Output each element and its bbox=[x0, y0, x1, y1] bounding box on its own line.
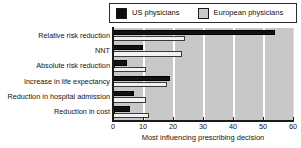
x-axis-tick bbox=[233, 117, 234, 121]
bar-european-physicians bbox=[113, 51, 182, 56]
y-axis-tick bbox=[112, 97, 115, 98]
y-axis-tick bbox=[112, 51, 115, 52]
plot-area bbox=[113, 28, 294, 120]
bar-us-physicians bbox=[113, 30, 275, 35]
y-axis-category-label: Increase in life expectancy bbox=[2, 78, 110, 85]
x-axis-title: Most influencing prescribing decision bbox=[113, 134, 293, 142]
y-axis-category-label: NNT bbox=[2, 47, 110, 54]
bar-chart-figure: US physicians European physicians Relati… bbox=[0, 0, 301, 148]
bar-group bbox=[113, 43, 293, 58]
bar-european-physicians bbox=[113, 97, 146, 102]
legend-entry-us-physicians: US physicians bbox=[116, 4, 180, 22]
bar-european-physicians bbox=[113, 67, 146, 72]
x-axis-tick bbox=[173, 117, 174, 121]
black-square-swatch-icon bbox=[116, 8, 127, 19]
x-axis-tick-label: 50 bbox=[259, 123, 267, 130]
x-axis-tick bbox=[293, 117, 294, 121]
y-axis-tick bbox=[112, 82, 115, 83]
bar-group bbox=[113, 59, 293, 74]
bar-us-physicians bbox=[113, 60, 127, 65]
x-axis-tick-label: 30 bbox=[199, 123, 207, 130]
x-axis-tick-label: 40 bbox=[229, 123, 237, 130]
x-axis-tick-label: 10 bbox=[139, 123, 147, 130]
legend-entry-european-physicians: European physicians bbox=[198, 4, 284, 22]
x-axis-tick-label: 20 bbox=[169, 123, 177, 130]
bar-group bbox=[113, 74, 293, 89]
bar-us-physicians bbox=[113, 106, 130, 111]
y-axis-category-label: Absolute risk reduction bbox=[2, 62, 110, 69]
y-axis-category-label: Reduction in cost bbox=[2, 108, 110, 115]
y-axis-tick bbox=[112, 36, 115, 37]
x-axis-tick-label: 60 bbox=[289, 123, 297, 130]
y-axis-tick bbox=[112, 66, 115, 67]
bar-group bbox=[113, 89, 293, 104]
legend-label-us-physicians: US physicians bbox=[132, 9, 180, 17]
y-axis-line bbox=[112, 27, 114, 121]
y-axis-tick bbox=[112, 112, 115, 113]
bar-group bbox=[113, 28, 293, 43]
bar-european-physicians bbox=[113, 36, 185, 41]
bar-us-physicians bbox=[113, 76, 170, 81]
x-axis-tick bbox=[143, 117, 144, 121]
x-axis-tick bbox=[203, 117, 204, 121]
bar-us-physicians bbox=[113, 91, 134, 96]
x-axis-tick-label: 0 bbox=[111, 123, 115, 130]
legend-label-european-physicians: European physicians bbox=[214, 9, 284, 17]
x-axis-tick bbox=[263, 117, 264, 121]
bar-european-physicians bbox=[113, 82, 167, 87]
grey-square-swatch-icon bbox=[198, 8, 209, 19]
y-axis-category-label: Reduction in hospital admission bbox=[2, 93, 110, 100]
y-axis-category-labels: Relative risk reductionNNTAbsolute risk … bbox=[0, 28, 110, 120]
y-axis-category-label: Relative risk reduction bbox=[2, 32, 110, 39]
chart-legend: US physicians European physicians bbox=[109, 3, 297, 23]
x-axis-tick bbox=[113, 117, 114, 121]
bar-us-physicians bbox=[113, 45, 143, 50]
